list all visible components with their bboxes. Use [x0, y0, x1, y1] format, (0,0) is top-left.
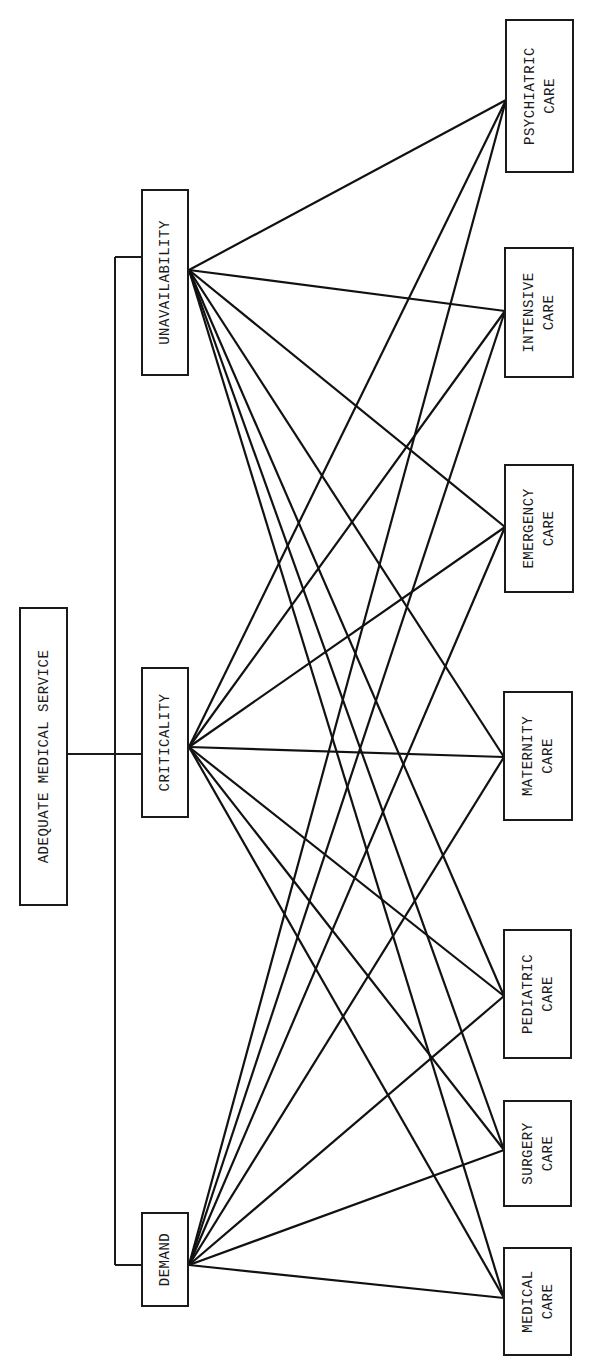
- service-node-surgery-box: [504, 1101, 571, 1206]
- service-node-medical-box: [504, 1248, 571, 1355]
- service-node-medical-label-line-2: CARE: [540, 1284, 556, 1320]
- edge-demand-intensive: [189, 311, 505, 1265]
- service-node-surgery-label-line-1: SURGERY: [520, 1122, 536, 1184]
- service-node-maternity-box: [504, 692, 572, 820]
- service-node-intensive: INTENSIVECARE: [505, 248, 573, 377]
- service-node-maternity-label-line-1: MATERNITY: [520, 716, 536, 796]
- criterion-node-demand-label-line-1: DEMAND: [157, 1233, 173, 1286]
- service-node-intensive-label-line-2: CARE: [541, 295, 557, 331]
- root-node-label-line-1: ADEQUATE MEDICAL SERVICE: [36, 650, 52, 864]
- service-node-medical-label-line-1: MEDICAL: [520, 1270, 536, 1332]
- edge-criticality-maternity: [189, 747, 504, 757]
- root-node: ADEQUATE MEDICAL SERVICE: [20, 608, 67, 905]
- service-node-maternity: MATERNITYCARE: [504, 692, 572, 820]
- service-node-surgery-label-line-2: CARE: [540, 1136, 556, 1172]
- criterion-node-unavailability: UNAVAILABILITY: [142, 190, 188, 375]
- service-node-pediatric-box: [504, 930, 571, 1058]
- service-node-surgery: SURGERYCARE: [504, 1101, 571, 1206]
- edge-demand-medical: [189, 1265, 504, 1298]
- service-node-pediatric: PEDIATRICCARE: [504, 930, 571, 1058]
- service-node-maternity-label-line-2: CARE: [540, 738, 556, 774]
- criterion-node-unavailability-label-line-1: UNAVAILABILITY: [157, 220, 173, 345]
- service-node-psychiatric: PSYCHIATRICCARE: [506, 20, 573, 172]
- hierarchy-diagram: ADEQUATE MEDICAL SERVICEUNAVAILABILITYCR…: [0, 0, 598, 1363]
- service-node-emergency: EMERGENCYCARE: [505, 465, 573, 592]
- edge-unavailability-surgery: [189, 270, 504, 1150]
- service-node-medical: MEDICALCARE: [504, 1248, 571, 1355]
- edge-unavailability-psychiatric: [189, 100, 506, 270]
- criterion-node-criticality-label-line-1: CRITICALITY: [157, 693, 173, 791]
- service-node-intensive-box: [505, 248, 573, 377]
- tree-connectors: [67, 257, 142, 1265]
- service-node-pediatric-label-line-1: PEDIATRIC: [520, 954, 536, 1034]
- edge-criticality-medical: [189, 747, 504, 1298]
- service-node-intensive-label-line-1: INTENSIVE: [521, 272, 537, 352]
- service-node-emergency-label-line-1: EMERGENCY: [521, 488, 537, 568]
- service-node-psychiatric-box: [506, 20, 573, 172]
- edge-demand-pediatric: [189, 996, 504, 1265]
- criteria-service-edges: [189, 100, 506, 1298]
- service-node-emergency-box: [505, 465, 573, 592]
- edge-demand-maternity: [189, 757, 504, 1265]
- service-node-psychiatric-label-line-2: CARE: [542, 78, 558, 114]
- criterion-node-demand: DEMAND: [142, 1213, 188, 1306]
- service-node-pediatric-label-line-2: CARE: [540, 976, 556, 1012]
- service-node-emergency-label-line-2: CARE: [541, 511, 557, 547]
- service-node-psychiatric-label-line-1: PSYCHIATRIC: [522, 47, 538, 145]
- edge-unavailability-emergency: [189, 270, 505, 527]
- criterion-node-criticality: CRITICALITY: [142, 668, 188, 817]
- edge-demand-surgery: [189, 1150, 504, 1265]
